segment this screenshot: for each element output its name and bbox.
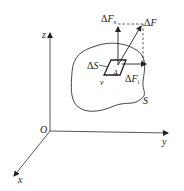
diagram-canvas: z y x O S A ν ΔS ΔF ΔFn ΔFt <box>0 0 184 191</box>
point-a-label: A <box>112 69 118 78</box>
delta-s-label: ΔS <box>87 60 98 71</box>
x-axis-label: x <box>17 174 23 185</box>
tangential-force-label: ΔFt <box>125 73 140 85</box>
normal-force-label: ΔFn <box>101 13 117 25</box>
normal-nu-label: ν <box>100 78 104 87</box>
z-axis-label: z <box>41 29 46 40</box>
diagram-svg: z y x O S A ν ΔS ΔF ΔFn ΔFt <box>0 0 184 191</box>
resultant-force-label: ΔF <box>144 17 157 28</box>
resultant-force-arrow <box>118 26 141 65</box>
x-axis <box>14 131 50 176</box>
origin-label: O <box>40 124 47 135</box>
surface-s-label: S <box>143 95 148 106</box>
y-axis-label: y <box>161 136 167 147</box>
delta-s-leader <box>99 65 108 67</box>
y-axis <box>50 131 168 133</box>
